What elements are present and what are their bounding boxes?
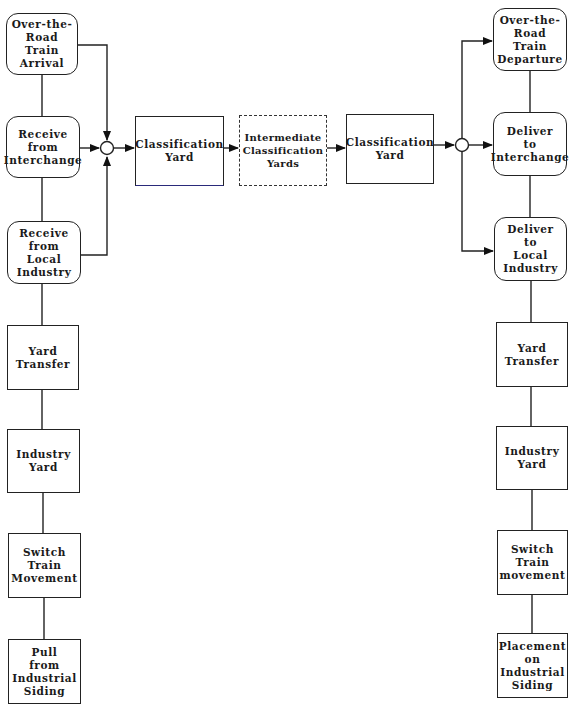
deliver-interchange-node: Deliver to Interchange <box>493 112 567 176</box>
receive-local-industry-node: Receive from Local Industry <box>7 221 81 284</box>
merge-junction <box>101 142 114 155</box>
receive-interchange-node: Receive from Interchange <box>6 116 80 178</box>
placement-on-siding-node: Placement on Industrial Siding <box>497 633 568 698</box>
intermediate-yards-node: Intermediate Classification Yards <box>239 115 327 186</box>
yard-transfer-left-node: Yard Transfer <box>7 325 79 390</box>
otr-arrival-node: Over-the- Road Train Arrival <box>6 13 78 75</box>
connector-lines <box>0 0 572 706</box>
classification-yard-2-node: Classification Yard <box>346 114 434 184</box>
split-junction <box>456 139 469 152</box>
pull-from-siding-node: Pull from Industrial Siding <box>8 639 81 704</box>
yard-transfer-right-node: Yard Transfer <box>496 322 568 387</box>
industry-yard-left-node: Industry Yard <box>7 429 80 493</box>
industry-yard-right-node: Industry Yard <box>496 426 568 490</box>
deliver-local-industry-node: Deliver to Local Industry <box>494 217 567 281</box>
classification-yard-1-node: Classification Yard <box>135 116 224 186</box>
otr-departure-node: Over-the- Road Train Departure <box>493 8 567 71</box>
switch-train-left-node: Switch Train Movement <box>8 533 81 598</box>
switch-train-right-node: Switch Train movement <box>497 530 568 595</box>
